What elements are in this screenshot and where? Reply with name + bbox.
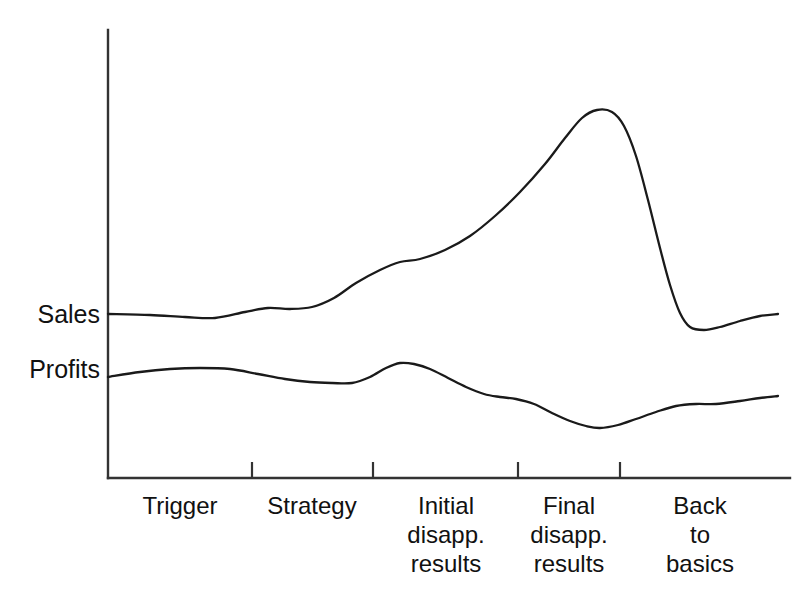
x-axis-label-2-line-2: results bbox=[376, 549, 516, 578]
series-group bbox=[108, 109, 778, 428]
x-axis-label-0: Trigger bbox=[110, 491, 250, 520]
series-label-profits: Profits bbox=[29, 357, 100, 382]
x-axis-label-3-line-2: results bbox=[499, 549, 639, 578]
series-label-sales: Sales bbox=[37, 302, 100, 327]
x-axis-label-3-line-0: Final bbox=[499, 491, 639, 520]
profits-line bbox=[108, 363, 778, 428]
x-axis-label-0-line-0: Trigger bbox=[110, 491, 250, 520]
x-axis-label-1: Strategy bbox=[242, 491, 382, 520]
axes-group bbox=[108, 30, 790, 478]
x-axis-label-2: Initialdisapp.results bbox=[376, 491, 516, 578]
x-axis-label-3: Finaldisapp.results bbox=[499, 491, 639, 578]
x-axis-label-2-line-0: Initial bbox=[376, 491, 516, 520]
x-axis-label-4-line-2: basics bbox=[630, 549, 770, 578]
x-axis-label-3-line-1: disapp. bbox=[499, 520, 639, 549]
x-axis-ticks bbox=[252, 462, 620, 478]
sales-line bbox=[108, 109, 778, 330]
x-axis-label-4-line-0: Back bbox=[630, 491, 770, 520]
chart-container: Sales Profits TriggerStrategyInitialdisa… bbox=[0, 0, 804, 612]
x-axis-label-2-line-1: disapp. bbox=[376, 520, 516, 549]
x-axis-label-4: Backtobasics bbox=[630, 491, 770, 578]
x-axis-label-1-line-0: Strategy bbox=[242, 491, 382, 520]
x-axis-label-4-line-1: to bbox=[630, 520, 770, 549]
